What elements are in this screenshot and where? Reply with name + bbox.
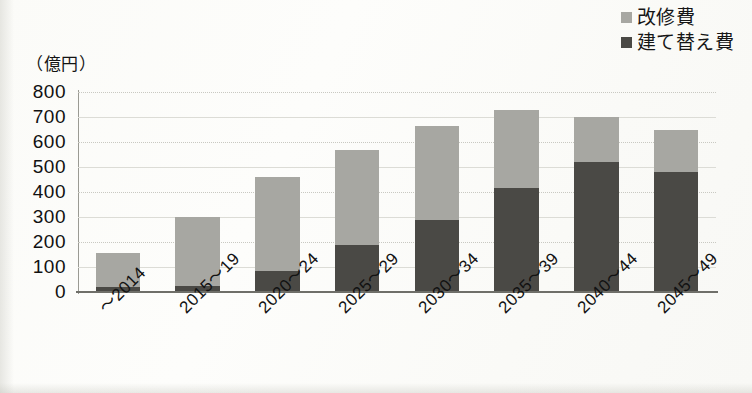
x-axis-tick-labels: 〜20142015〜192020〜242025〜292030〜342035〜39… (0, 0, 752, 393)
x-tick-label: 2040〜44 (570, 245, 642, 317)
x-tick-label: 2015〜19 (172, 245, 244, 317)
x-tick-label: 2045〜49 (650, 245, 722, 317)
x-tick-label: 〜2014 (92, 259, 150, 317)
x-tick-label: 2035〜39 (491, 245, 563, 317)
x-tick-label: 2025〜29 (331, 245, 403, 317)
x-tick-label: 2020〜24 (251, 245, 323, 317)
bar-chart: 8007006005004003002001000 〜20142015〜1920… (0, 0, 752, 393)
x-tick-label: 2030〜34 (411, 245, 483, 317)
